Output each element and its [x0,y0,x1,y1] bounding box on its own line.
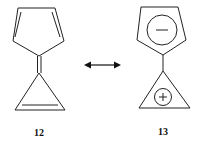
structure-12 [13,8,65,110]
structure-label-13: 13 [158,126,168,137]
cyclopropene-ring [15,73,65,110]
resonance-arrow [84,62,121,69]
cyclopropenium-ring [139,71,190,108]
cyclopentadienide-ring [137,7,186,55]
structure-13 [137,7,190,108]
structure-label-12: 12 [34,127,44,138]
resonance-diagram: 12 13 [0,0,202,145]
